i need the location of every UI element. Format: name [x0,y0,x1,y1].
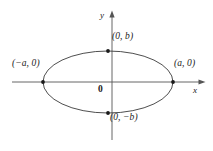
x-axis-label: x [193,86,197,95]
top-covertex-label: (0, b) [112,32,133,42]
vertex-point-left [41,80,45,84]
bottom-covertex-label: (0, −b) [110,113,138,123]
vertex-point-right [171,80,175,84]
y-axis-label: y [100,11,104,20]
x-axis-arrowhead [199,79,206,84]
ellipse-figure: y x 0 (0, b) (0, −b) (−a, 0) (a, 0) [0,0,213,151]
covertex-point-top [106,49,110,53]
ellipse-diagram-canvas [0,0,213,151]
right-vertex-label: (a, 0) [174,59,195,69]
left-vertex-label: (−a, 0) [12,59,40,69]
y-axis-arrowhead [109,11,114,18]
origin-label: 0 [98,85,103,95]
